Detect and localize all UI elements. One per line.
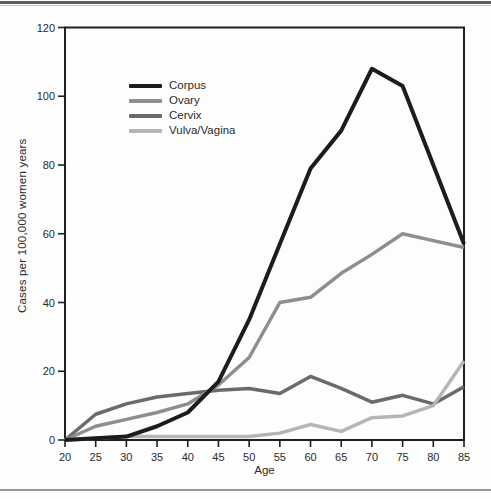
y-tick-label: 120	[37, 22, 55, 34]
y-axis-title: Cases per 100,000 women years	[16, 153, 28, 313]
x-tick-label: 20	[59, 451, 71, 463]
legend-swatch-ovary	[129, 99, 162, 103]
x-tick-label: 40	[182, 451, 194, 463]
x-tick-label: 35	[151, 451, 163, 463]
x-tick-label: 25	[90, 451, 102, 463]
legend-label-ovary: Ovary	[169, 93, 200, 108]
bottom-rule	[0, 489, 491, 491]
x-tick-label: 45	[212, 451, 224, 463]
legend-item-corpus: Corpus	[129, 78, 236, 93]
legend-swatch-corpus	[129, 84, 162, 88]
y-tick-label: 100	[37, 90, 55, 102]
legend-item-ovary: Ovary	[129, 93, 236, 108]
x-axis-title: Age	[65, 464, 464, 476]
x-tick-label: 80	[427, 451, 439, 463]
legend-label-vulva-vagina: Vulva/Vagina	[169, 123, 236, 138]
x-tick-label: 75	[396, 451, 408, 463]
legend-item-cervix: Cervix	[129, 108, 236, 123]
x-tick-label: 65	[335, 451, 347, 463]
x-tick-label: 85	[458, 451, 470, 463]
series-line-cervix	[65, 376, 464, 440]
y-tick-label: 20	[43, 365, 55, 377]
series-line-vulva-vagina	[65, 361, 464, 440]
x-tick-label: 50	[243, 451, 255, 463]
legend-swatch-vulva-vagina	[129, 129, 162, 133]
x-tick-label: 55	[274, 451, 286, 463]
figure-page: 0204060801001202025303540455055606570758…	[0, 0, 491, 499]
x-tick-label: 60	[304, 451, 316, 463]
series-line-ovary	[65, 234, 464, 440]
legend: CorpusOvaryCervixVulva/Vagina	[129, 78, 236, 138]
legend-item-vulva-vagina: Vulva/Vagina	[129, 123, 236, 138]
y-tick-label: 80	[43, 159, 55, 171]
y-tick-label: 60	[43, 228, 55, 240]
legend-label-corpus: Corpus	[169, 78, 206, 93]
legend-label-cervix: Cervix	[169, 108, 202, 123]
x-tick-label: 30	[120, 451, 132, 463]
series-line-corpus	[65, 69, 464, 440]
y-tick-label: 0	[49, 434, 55, 446]
legend-swatch-cervix	[129, 114, 162, 118]
x-tick-label: 70	[366, 451, 378, 463]
y-tick-label: 40	[43, 297, 55, 309]
incidence-line-chart: 0204060801001202025303540455055606570758…	[0, 0, 491, 499]
